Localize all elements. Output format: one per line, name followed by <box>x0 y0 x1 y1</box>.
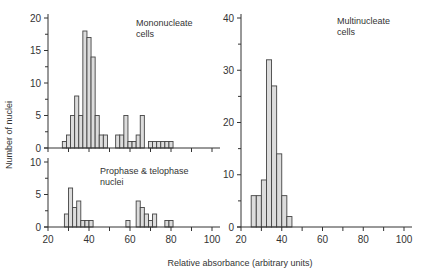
y-tick-label: 5 <box>35 110 41 121</box>
panel-title-line: cells <box>136 29 155 39</box>
x-tick-label: 60 <box>124 234 136 245</box>
panel-title: Multinucleatecells <box>337 16 390 37</box>
histogram-bar <box>95 116 99 149</box>
histogram-bar <box>261 180 266 227</box>
x-axis-label: Relative absorbance (arbitrary units) <box>167 258 312 268</box>
histogram-bar <box>153 142 157 149</box>
histogram-bar <box>77 201 81 227</box>
y-tick-label: 40 <box>223 13 235 24</box>
histogram-bar <box>69 188 73 227</box>
histogram-bar <box>169 142 173 149</box>
histogram-bar <box>99 135 103 148</box>
histogram-bar <box>140 208 144 228</box>
y-tick-label: 0 <box>228 222 234 233</box>
histogram-bar <box>136 201 140 227</box>
histogram-bars <box>251 60 292 227</box>
y-axis-label: Number of nuclei <box>4 101 14 169</box>
y-tick-label: 5 <box>35 189 41 200</box>
histogram-bar <box>128 142 132 149</box>
x-tick-label: 20 <box>42 234 54 245</box>
histogram-bar <box>75 96 79 148</box>
y-tick-label: 0 <box>35 222 41 233</box>
y-tick-label: 20 <box>30 13 42 24</box>
histogram-bar <box>287 217 292 227</box>
x-tick-label: 40 <box>276 234 288 245</box>
histogram-bar <box>124 116 128 149</box>
histogram-bar <box>85 221 89 228</box>
panel-multinucleate: 01020304020406080100Multinucleatecells <box>223 13 413 246</box>
histogram-bar <box>120 135 124 148</box>
panel-title-line: nuclei <box>100 177 124 187</box>
panel-title-line: Mononucleate <box>136 18 193 28</box>
histogram-bar <box>165 221 169 228</box>
histogram-figure: 05101520Mononucleatecells 05102040608010… <box>0 0 421 270</box>
histogram-bar <box>272 86 277 227</box>
histogram-bar <box>103 135 107 148</box>
panel-title-line: Multinucleate <box>337 16 390 26</box>
panel-title-line: Prophase & telophase <box>100 166 189 176</box>
histogram-bar <box>89 221 93 228</box>
panel-title: Prophase & telophasenuclei <box>100 166 189 187</box>
y-tick-label: 20 <box>223 117 235 128</box>
y-tick-label: 10 <box>30 78 42 89</box>
histogram-bar <box>169 221 173 228</box>
histogram-bar <box>87 38 91 149</box>
y-tick-label: 15 <box>30 45 42 56</box>
x-tick-label: 80 <box>358 234 370 245</box>
histogram-bar <box>161 142 165 149</box>
y-tick-label: 0 <box>35 143 41 154</box>
histogram-bars <box>62 31 173 148</box>
histogram-bar <box>83 31 87 148</box>
histogram-bar <box>64 214 68 227</box>
histogram-bar <box>256 196 261 227</box>
y-tick-label: 10 <box>30 157 42 168</box>
panel-title-line: cells <box>337 27 356 37</box>
histogram-bar <box>144 214 148 227</box>
panel-prophase-telophase: 051020406080100Prophase & telophasenucle… <box>30 157 221 246</box>
chart-svg: 05101520Mononucleatecells 05102040608010… <box>0 0 421 270</box>
histogram-bar <box>153 214 157 227</box>
histogram-bar <box>116 135 120 148</box>
histogram-bar <box>165 142 169 149</box>
panel-title: Mononucleatecells <box>136 18 193 39</box>
histogram-bar <box>157 142 161 149</box>
histogram-bars <box>64 188 173 227</box>
histogram-bar <box>91 57 95 148</box>
histogram-bar <box>79 116 83 149</box>
x-tick-label: 80 <box>165 234 177 245</box>
x-tick-label: 100 <box>396 234 413 245</box>
histogram-bar <box>148 142 152 149</box>
histogram-bar <box>136 135 140 148</box>
panel-mononucleate: 05101520Mononucleatecells <box>30 13 220 154</box>
histogram-bar <box>66 135 70 148</box>
x-tick-label: 60 <box>317 234 329 245</box>
histogram-bar <box>71 116 75 149</box>
histogram-bar <box>73 208 77 228</box>
y-tick-label: 10 <box>223 169 235 180</box>
x-tick-label: 20 <box>235 234 247 245</box>
histogram-bar <box>282 196 287 227</box>
x-tick-label: 100 <box>204 234 221 245</box>
histogram-bar <box>62 142 66 149</box>
histogram-bar <box>266 60 271 227</box>
histogram-bar <box>251 196 256 227</box>
histogram-bar <box>132 142 136 149</box>
y-tick-label: 30 <box>223 65 235 76</box>
x-tick-label: 40 <box>83 234 95 245</box>
histogram-bar <box>148 221 152 228</box>
histogram-bar <box>81 221 85 228</box>
histogram-bar <box>126 221 130 228</box>
histogram-bar <box>277 154 282 227</box>
histogram-bar <box>140 116 144 149</box>
